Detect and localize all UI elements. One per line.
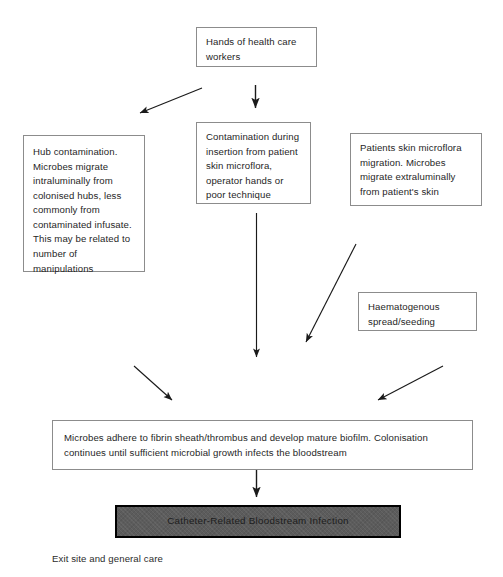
flowchart-diagram: Hands of health care workers Hub contami… — [0, 0, 503, 577]
node-contamination-during-insertion: Contamination during insertion from pati… — [196, 122, 311, 204]
node-patient-skin-microflora: Patients skin microflora migration. Micr… — [350, 133, 482, 206]
node-microbes-adhere-biofilm: Microbes adhere to fibrin sheath/thrombu… — [52, 420, 473, 470]
arrow-hands-to-hub — [140, 88, 202, 113]
caption-exit-site-and-general-care: Exit site and general care — [52, 553, 163, 564]
arrow-left-converging-to-biofilm — [134, 366, 172, 400]
node-haematogenous-spread: Haematogenous spread/seeding — [358, 292, 477, 331]
node-hands-of-health-care-workers: Hands of health care workers — [196, 27, 317, 67]
node-catheter-related-bloodstream-infection: Catheter-Related Bloodstream Infection — [115, 505, 401, 538]
node-hub-contamination: Hub contamination. Microbes migrate intr… — [23, 135, 145, 272]
arrow-patient-skin-to-biofilm — [306, 244, 356, 342]
arrow-haematogenous-to-biofilm — [378, 366, 443, 400]
arrow-layer — [0, 0, 503, 577]
